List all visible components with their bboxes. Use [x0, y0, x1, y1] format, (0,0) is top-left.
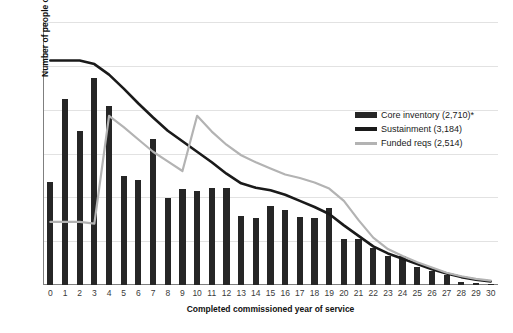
line-series-overlay [43, 22, 498, 285]
x-axis-tick-label: 25 [413, 288, 422, 298]
x-axis-tick-label: 8 [165, 288, 170, 298]
x-axis-tick-label: 14 [251, 288, 260, 298]
funded-reqs-swatch-icon [355, 142, 377, 145]
x-axis-tick-label: 13 [236, 288, 245, 298]
x-axis-tick-label: 19 [324, 288, 333, 298]
legend-label-sustainment: Sustainment (3,184) [381, 124, 462, 134]
x-axis-tick-label: 16 [280, 288, 289, 298]
x-axis-tick-label: 17 [295, 288, 304, 298]
chart-container: 0501001502002503000123456789101112131415… [0, 0, 513, 333]
line-series [50, 61, 490, 282]
x-axis-tick-label: 12 [222, 288, 231, 298]
x-axis-tick-label: 18 [310, 288, 319, 298]
x-axis-tick-label: 11 [207, 288, 216, 298]
x-axis-tick-label: 30 [486, 288, 495, 298]
x-axis-tick-label: 22 [369, 288, 378, 298]
core-inventory-swatch-icon [355, 112, 377, 118]
x-axis-tick-label: 29 [471, 288, 480, 298]
legend-label-funded-reqs: Funded reqs (2,514) [381, 138, 463, 148]
x-axis-tick-label: 28 [457, 288, 466, 298]
chart-legend: Core inventory (2,710)* Sustainment (3,1… [355, 108, 505, 150]
x-axis-tick-label: 10 [192, 288, 201, 298]
legend-item-funded-reqs: Funded reqs (2,514) [355, 136, 505, 150]
x-axis-tick-label: 7 [151, 288, 156, 298]
y-axis-title: Number of people or positions [40, 0, 50, 77]
x-axis-tick-label: 20 [339, 288, 348, 298]
x-axis-tick-label: 21 [354, 288, 363, 298]
x-axis-tick-label: 4 [107, 288, 112, 298]
x-axis-tick-label: 3 [92, 288, 97, 298]
chart-title [0, 0, 513, 1]
x-axis-tick-label: 15 [266, 288, 275, 298]
x-axis-tick-label: 2 [77, 288, 82, 298]
legend-item-core-inventory: Core inventory (2,710)* [355, 108, 505, 122]
x-axis-tick-label: 26 [427, 288, 436, 298]
x-axis-tick-label: 23 [383, 288, 392, 298]
x-axis-tick-label: 1 [63, 288, 68, 298]
sustainment-swatch-icon [355, 127, 377, 131]
x-axis-tick-label: 6 [136, 288, 141, 298]
x-axis-tick-label: 24 [398, 288, 407, 298]
legend-label-core-inventory: Core inventory (2,710)* [381, 110, 474, 120]
legend-item-sustainment: Sustainment (3,184) [355, 122, 505, 136]
x-axis-tick-label: 9 [180, 288, 185, 298]
plot-area: 0501001502002503000123456789101112131415… [43, 22, 498, 285]
x-axis-tick-label: 27 [442, 288, 451, 298]
x-axis-title: Completed commissioned year of service [43, 304, 498, 314]
x-axis-tick-label: 0 [48, 288, 53, 298]
x-axis-tick-label: 5 [121, 288, 126, 298]
